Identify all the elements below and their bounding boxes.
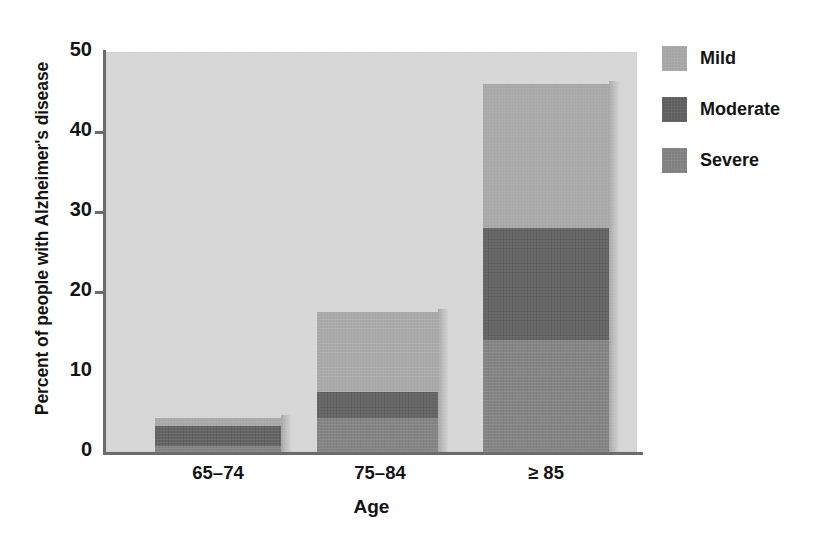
y-tick-label: 0 [46,438,92,461]
bar-segment-mild [317,312,438,392]
bar-segment-moderate [317,392,438,418]
plot-bars-container [106,52,637,452]
legend-swatch-mild [662,46,687,71]
bar-85 [483,84,609,452]
y-axis-title: Percent of people with Alzheimer's disea… [32,29,53,449]
legend-label-severe: Severe [700,150,759,171]
legend-label-mild: Mild [700,48,736,69]
x-axis-title: Age [106,496,637,518]
y-tick-label: 20 [46,278,92,301]
legend-item-moderate[interactable]: Moderate [662,97,780,122]
bar-shadow [609,81,620,452]
y-tick-label: 40 [46,118,92,141]
bar-shadow [281,415,292,452]
legend-item-severe[interactable]: Severe [662,148,759,173]
x-tick-label-75-84: 75–84 [317,462,443,484]
legend-item-mild[interactable]: Mild [662,46,736,71]
x-tick-label-85-plus: ≥ 85 [483,462,609,484]
y-tick-label: 10 [46,358,92,381]
bar-segment-moderate [483,228,609,340]
bar-segment-moderate [155,426,281,445]
bar-segment-mild [155,418,281,426]
bar-75-84 [317,312,438,452]
legend-swatch-severe [662,148,687,173]
legend-label-moderate: Moderate [700,99,780,120]
legend-swatch-moderate [662,97,687,122]
y-axis-line [103,50,106,454]
bar-shadow [438,309,449,452]
bar-segment-severe [317,418,438,452]
bar-65-74 [155,418,281,452]
bar-segment-severe [483,340,609,452]
y-tick-label: 50 [46,38,92,61]
x-axis-line [103,452,643,455]
plot-area [106,52,637,452]
x-tick-label-65-74: 65–74 [155,462,281,484]
bar-segment-mild [483,84,609,228]
chart-figure: Percent of people with Alzheimer's disea… [0,0,828,538]
y-tick-label: 30 [46,198,92,221]
